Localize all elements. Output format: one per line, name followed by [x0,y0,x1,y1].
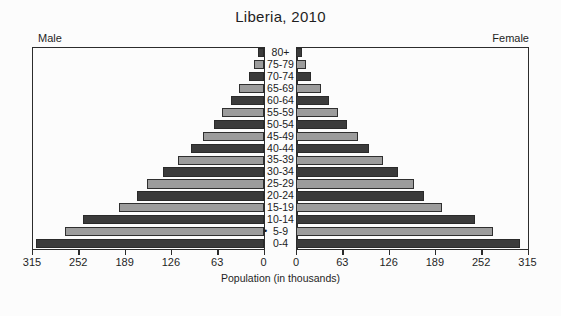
x-axis-tick [389,250,390,255]
male-bar [249,72,264,81]
male-bar [191,144,263,153]
age-group-label: 45-49 [265,131,296,143]
age-group-label: 50-54 [265,119,296,131]
male-bar [36,239,264,248]
female-bar [296,132,358,141]
x-axis-title: Population (in thousands) [0,272,561,284]
x-axis-tick-label: 0 [276,256,316,268]
female-bar [296,84,321,93]
female-bar [296,96,329,105]
x-axis-tick [528,250,529,255]
female-bar [296,215,475,224]
x-axis-tick [217,250,218,255]
x-axis-tick [435,250,436,255]
male-bar [254,60,264,69]
x-axis-tick-label: 315 [508,256,548,268]
x-axis-ticks: 315252189126630063126189252315 [0,250,561,272]
male-bar [65,227,263,236]
x-axis-tick [342,250,343,255]
page-title: Liberia, 2010 [0,8,561,25]
female-bar [296,144,369,153]
x-axis-tick-label: 252 [58,256,98,268]
female-bar [296,191,424,200]
x-axis-tick [264,250,265,255]
age-group-label: 65-69 [265,83,296,95]
female-bar [296,60,306,69]
female-bar [296,48,302,57]
male-bar [147,179,263,188]
male-bar [163,167,264,176]
male-bar [258,48,263,57]
female-caption: Female [492,32,529,44]
female-bar [296,227,493,236]
male-bar [203,132,263,141]
male-bar [239,84,263,93]
x-axis-tick [296,250,297,255]
age-group-label: 55-59 [265,107,296,119]
female-bar [296,156,383,165]
x-axis-tick [32,250,33,255]
x-axis-tick-label: 63 [197,256,237,268]
female-bar [296,203,442,212]
female-bar [296,167,398,176]
x-axis-tick [125,250,126,255]
x-axis-tick [171,250,172,255]
male-bar [231,96,263,105]
x-axis-tick-label: 315 [12,256,52,268]
female-bar [296,120,347,129]
male-bar [178,156,264,165]
male-bar [119,203,263,212]
x-axis-tick [481,250,482,255]
female-bar [296,179,414,188]
population-pyramid-chart: Liberia, 2010 Male Female 80+75-7970-746… [0,0,561,316]
x-axis-tick-label: 63 [322,256,362,268]
male-bar [137,191,263,200]
male-caption: Male [38,32,62,44]
female-bar [296,108,338,117]
age-group-label: 0-4 [265,238,296,250]
male-bar [214,120,264,129]
x-axis-tick-label: 189 [415,256,455,268]
male-bar [222,108,263,117]
age-group-labels: 80+75-7970-7465-6960-6455-5950-5445-4940… [265,47,296,250]
annotation-dot-icon: • [264,226,267,238]
female-bar [296,239,520,248]
age-group-label: 60-64 [265,95,296,107]
x-axis-tick-label: 189 [105,256,145,268]
x-axis-tick-label: 252 [461,256,501,268]
x-axis-tick [78,250,79,255]
male-bar [83,215,263,224]
x-axis-tick-label: 126 [369,256,409,268]
x-axis-tick-label: 126 [151,256,191,268]
female-bar [296,72,311,81]
